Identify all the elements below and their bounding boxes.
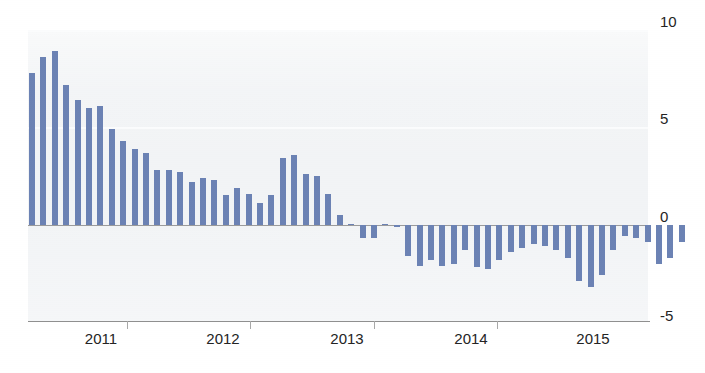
bar xyxy=(29,73,35,225)
bar xyxy=(553,225,559,250)
y-tick-label-0: 0 xyxy=(660,209,700,224)
bar xyxy=(405,225,411,256)
bar xyxy=(474,225,480,268)
bar xyxy=(382,224,388,225)
bar xyxy=(246,194,252,225)
bar xyxy=(154,170,160,225)
bar xyxy=(679,225,685,243)
bar xyxy=(394,225,400,227)
bar xyxy=(439,225,445,266)
bar xyxy=(177,172,183,225)
y-tick-label-5: 5 xyxy=(660,111,700,126)
x-tick-label-2015: 2015 xyxy=(558,331,628,346)
x-axis-tick xyxy=(127,321,128,329)
bar xyxy=(633,225,639,239)
bar xyxy=(565,225,571,258)
bar xyxy=(337,215,343,225)
bar xyxy=(52,51,58,224)
bar xyxy=(485,225,491,270)
bottom-axis-line xyxy=(28,321,650,322)
y-tick-label-10: 10 xyxy=(660,14,700,29)
bar xyxy=(588,225,594,287)
bar xyxy=(417,225,423,266)
bar xyxy=(610,225,616,250)
bar xyxy=(428,225,434,260)
bar xyxy=(303,174,309,225)
bar xyxy=(280,158,286,224)
bar xyxy=(97,106,103,225)
bar xyxy=(667,225,673,258)
plot-area xyxy=(28,30,648,322)
bar xyxy=(268,195,274,224)
bar xyxy=(371,225,377,239)
bar xyxy=(86,108,92,225)
bar xyxy=(143,153,149,225)
bar-series xyxy=(28,30,648,322)
bar xyxy=(531,225,537,244)
bar xyxy=(257,203,263,224)
bar xyxy=(132,149,138,225)
x-tick-label-2014: 2014 xyxy=(436,331,506,346)
bar xyxy=(166,170,172,225)
bar xyxy=(360,225,366,239)
bar xyxy=(451,225,457,264)
bar xyxy=(496,225,502,260)
bar xyxy=(519,225,525,248)
bar xyxy=(211,180,217,225)
bar xyxy=(75,100,81,225)
bar xyxy=(542,225,548,246)
bar xyxy=(325,194,331,225)
bar xyxy=(120,141,126,225)
bar xyxy=(63,85,69,225)
bar xyxy=(645,225,651,243)
bar xyxy=(200,178,206,225)
bar xyxy=(291,155,297,225)
x-tick-label-2011: 2011 xyxy=(66,331,136,346)
bar xyxy=(622,225,628,237)
x-axis-tick xyxy=(497,321,498,329)
bar xyxy=(656,225,662,264)
y-tick-label-minus5: -5 xyxy=(660,308,700,323)
x-tick-label-2012: 2012 xyxy=(188,331,258,346)
bar xyxy=(599,225,605,276)
x-axis-tick xyxy=(374,321,375,329)
x-axis-tick xyxy=(250,321,251,329)
bar xyxy=(576,225,582,281)
bar xyxy=(189,182,195,225)
bar xyxy=(234,188,240,225)
bar xyxy=(40,57,46,224)
bar xyxy=(462,225,468,250)
bar xyxy=(348,224,354,225)
bar xyxy=(508,225,514,252)
bar xyxy=(223,195,229,224)
chart-figure: 10 5 0 -5 2011 2012 2013 2014 2015 xyxy=(0,0,705,373)
x-tick-label-2013: 2013 xyxy=(312,331,382,346)
bar xyxy=(109,129,115,224)
bar xyxy=(314,176,320,225)
